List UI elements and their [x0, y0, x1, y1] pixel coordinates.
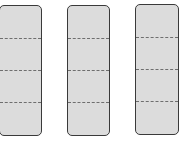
fraction-bar-2 — [67, 5, 110, 136]
dashed-divider — [136, 101, 178, 102]
dashed-divider — [0, 70, 41, 71]
fraction-bar-3 — [135, 4, 179, 135]
dashed-divider — [68, 38, 109, 39]
dashed-divider — [68, 70, 109, 71]
dashed-divider — [0, 38, 41, 39]
dashed-divider — [136, 69, 178, 70]
dashed-divider — [136, 37, 178, 38]
dashed-divider — [0, 102, 41, 103]
fraction-bar-1 — [0, 5, 42, 136]
dashed-divider — [68, 102, 109, 103]
